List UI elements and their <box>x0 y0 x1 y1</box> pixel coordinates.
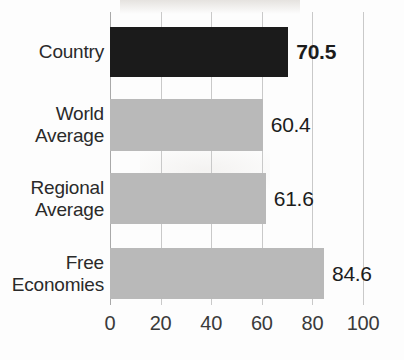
x-tick-label-40: 40 <box>200 312 222 334</box>
bar-country <box>110 27 288 77</box>
category-axis-labels: Country World Average Regional Average F… <box>0 0 104 320</box>
bar-chart: Country World Average Regional Average F… <box>0 0 404 360</box>
category-label-line: Economies <box>0 274 104 296</box>
category-label-country: Country <box>0 41 104 63</box>
category-label-line: Country <box>0 41 104 63</box>
bar-world-average <box>110 99 263 151</box>
bar-free-economies <box>110 248 324 299</box>
category-label-line: World <box>0 103 104 125</box>
x-tick-label-60: 60 <box>251 312 273 334</box>
value-label-world-average: 60.4 <box>271 114 311 135</box>
category-label-line: Average <box>0 125 104 147</box>
category-label-regional-average: Regional Average <box>0 177 104 221</box>
value-label-free-economies: 84.6 <box>332 263 372 284</box>
x-tick-label-100: 100 <box>347 312 379 334</box>
x-tick-label-20: 20 <box>150 312 172 334</box>
value-label-regional-average: 61.6 <box>274 188 314 209</box>
category-label-world-average: World Average <box>0 103 104 147</box>
x-tick-label-0: 0 <box>105 312 116 334</box>
category-label-line: Regional <box>0 177 104 199</box>
category-label-line: Average <box>0 199 104 221</box>
bar-regional-average <box>110 173 266 224</box>
category-label-line: Free <box>0 252 104 274</box>
value-label-country: 70.5 <box>296 41 336 62</box>
x-tick-label-80: 80 <box>302 312 324 334</box>
category-label-free-economies: Free Economies <box>0 252 104 296</box>
